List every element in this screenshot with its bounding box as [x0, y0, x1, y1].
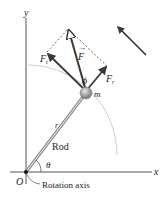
rotation-force-diagram: y x O F → F t F r ϕ m r Rod θ Rotation a…	[0, 0, 167, 197]
phi-label: ϕ	[82, 75, 87, 86]
origin-label: O	[16, 176, 23, 187]
y-axis-label: y	[23, 7, 29, 18]
vector-arrow-glyph: →	[78, 43, 86, 52]
dashed-guide	[47, 29, 68, 52]
rotation-axis-leader	[27, 174, 40, 184]
rod-label: Rod	[52, 141, 69, 152]
origin-point	[24, 170, 28, 174]
theta-label: θ	[46, 160, 51, 170]
particle-mass	[80, 87, 92, 99]
x-axis-label: x	[153, 166, 159, 177]
mass-label: m	[94, 89, 101, 99]
rotation-direction-arrow	[118, 27, 146, 55]
radial-force-vector	[86, 67, 106, 91]
force-label: F	[77, 51, 85, 62]
theta-angle-arc	[36, 160, 41, 172]
tangential-subscript: t	[46, 59, 48, 65]
radial-subscript: r	[112, 79, 115, 85]
rotation-axis-label: Rotation axis	[42, 180, 90, 190]
